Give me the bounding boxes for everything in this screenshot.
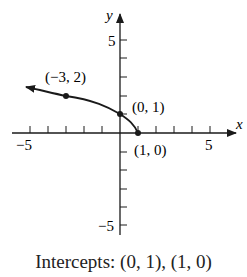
y-axis-label: y: [104, 7, 113, 23]
point-label-neg3-2: (−3, 2): [45, 69, 86, 86]
x-tick-label-5: 5: [205, 137, 213, 153]
point-0-1: [117, 111, 123, 117]
point-label-1-0: (1, 0): [134, 142, 167, 159]
curve: [26, 87, 138, 133]
point-label-0-1: (0, 1): [132, 99, 165, 116]
x-tick-label-neg5: −5: [16, 137, 32, 153]
point-neg3-2: [63, 93, 69, 99]
y-tick-label-5: 5: [108, 33, 116, 49]
point-1-0: [135, 130, 141, 136]
graph: x y −5 5 5 −5 (−3, 2) (0, 1) (1, 0): [0, 0, 247, 250]
x-axis-label: x: [235, 116, 243, 132]
y-tick-label-neg5: −5: [98, 218, 114, 234]
intercepts-caption: Intercepts: (0, 1), (1, 0): [0, 250, 247, 274]
